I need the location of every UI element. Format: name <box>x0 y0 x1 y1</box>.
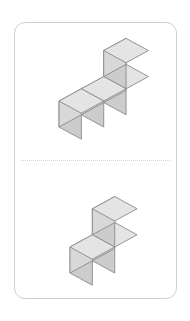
top-figure-panel <box>15 23 176 160</box>
isometric-cube-figures-card <box>14 22 177 299</box>
bottom-figure-panel <box>15 161 176 299</box>
figure-top <box>15 23 176 160</box>
top-cube-figure <box>59 38 148 139</box>
screenshot-stage <box>0 0 190 321</box>
figure-bottom <box>15 161 176 299</box>
bottom-cube-figure <box>70 197 137 286</box>
